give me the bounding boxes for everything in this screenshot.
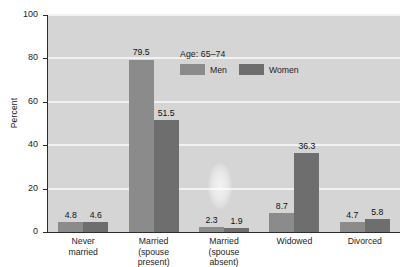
bar-men-0: [58, 222, 83, 232]
y-tick-mark-60: [43, 102, 47, 103]
legend-swatch-men: [180, 64, 205, 75]
gridline-40: [48, 144, 400, 146]
y-tick-label-60: 60: [12, 97, 38, 106]
bar-men-1: [129, 60, 154, 233]
y-tick-mark-100: [43, 15, 47, 16]
legend-item-women: Women: [239, 64, 299, 75]
legend-swatch-women: [239, 64, 264, 75]
y-tick-mark-0: [43, 232, 47, 233]
gridline-20: [48, 188, 400, 190]
bar-men-2: [199, 227, 224, 232]
y-tick-label-0: 0: [12, 227, 38, 236]
category-label-4: Divorced: [330, 236, 400, 247]
gridline-100: [48, 14, 400, 16]
legend-item-men: Men: [180, 64, 227, 75]
y-tick-mark-80: [43, 58, 47, 59]
bar-women-0: [83, 222, 108, 232]
chart-legend: Age: 65–74 MenWomen: [180, 49, 320, 75]
bar-men-3: [269, 213, 294, 232]
bar-value-label-men-3: 8.7: [265, 201, 298, 211]
bar-women-2: [224, 228, 249, 232]
bar-value-label-women-0: 4.6: [79, 210, 112, 220]
bar-value-label-women-3: 36.3: [290, 141, 323, 151]
gridline-60: [48, 101, 400, 103]
y-tick-label-40: 40: [12, 140, 38, 149]
bar-value-label-women-4: 5.8: [361, 207, 394, 217]
y-tick-label-20: 20: [12, 184, 38, 193]
bar-women-1: [154, 120, 179, 232]
category-label-3: Widowed: [259, 236, 329, 247]
y-tick-mark-20: [43, 189, 47, 190]
legend-label-men: Men: [210, 65, 227, 75]
y-tick-mark-40: [43, 145, 47, 146]
y-tick-label-80: 80: [12, 53, 38, 62]
y-axis-label: Percent: [9, 83, 19, 143]
scan-blemish-artifact: [208, 163, 232, 209]
legend-title: Age: 65–74: [180, 49, 320, 59]
category-label-1: Married (spouse present): [119, 236, 189, 267]
bar-value-label-men-1: 79.5: [125, 47, 158, 57]
x-axis-line: [47, 232, 400, 233]
bar-women-4: [365, 219, 390, 232]
bar-value-label-women-1: 51.5: [150, 108, 183, 118]
category-label-2: Married (spouse absent): [189, 236, 259, 267]
y-tick-label-100: 100: [12, 10, 38, 19]
bar-value-label-women-2: 1.9: [220, 216, 253, 226]
category-label-0: Never married: [48, 236, 118, 257]
bar-chart-figure: Percent 020406080100 4.84.679.551.52.31.…: [0, 0, 419, 267]
legend-label-women: Women: [269, 65, 299, 75]
legend-items: MenWomen: [180, 64, 320, 75]
plot-area: [48, 15, 400, 232]
bar-women-3: [294, 153, 319, 232]
bar-men-4: [340, 222, 365, 232]
